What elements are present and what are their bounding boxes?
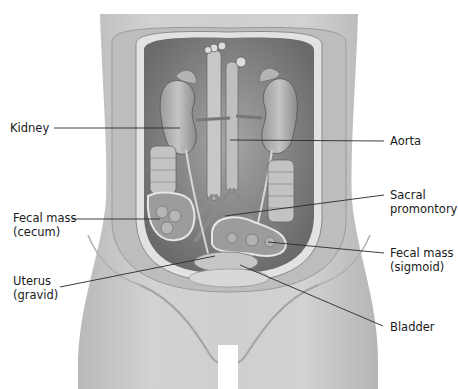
- label-sacral-promontory: Sacral promontory: [390, 188, 457, 216]
- label-fecal-mass-cecum: Fecal mass (cecum): [13, 211, 77, 239]
- label-kidney: Kidney: [10, 121, 49, 135]
- label-aorta: Aorta: [390, 134, 421, 148]
- anatomy-figure: Kidney Fecal mass (cecum) Uterus (gravid…: [0, 0, 458, 389]
- label-fecal-mass-sigmoid: Fecal mass (sigmoid): [390, 246, 454, 274]
- label-uterus-gravid: Uterus (gravid): [13, 274, 58, 302]
- label-bladder: Bladder: [390, 320, 435, 334]
